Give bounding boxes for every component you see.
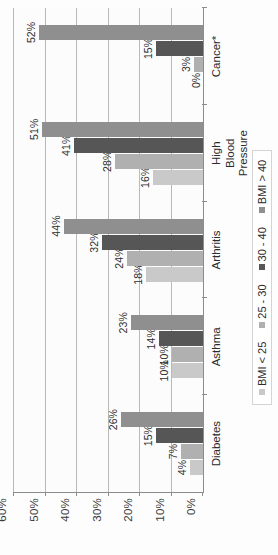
bar[interactable]: 32% xyxy=(102,235,203,250)
legend-swatch-icon xyxy=(259,207,265,213)
plot-area-wrapper: 0%10%20%30%40%50%60%4%7%15%26%Diabetes10… xyxy=(14,8,204,493)
bar[interactable]: 28% xyxy=(115,154,203,169)
y-axis-tick-mark xyxy=(108,492,109,496)
y-axis-tick-label: 60% xyxy=(0,498,8,522)
plot-area: 0%10%20%30%40%50%60%4%7%15%26%Diabetes10… xyxy=(14,8,204,493)
bar[interactable]: 26% xyxy=(121,412,203,427)
bar-value-label: 10% xyxy=(158,344,170,365)
x-axis-category-label: Asthma xyxy=(210,327,224,366)
legend-item[interactable]: BMI < 25 xyxy=(256,342,268,395)
bar-group: 4%7%15%26%Diabetes xyxy=(14,395,203,492)
y-axis-tick-mark xyxy=(171,492,172,496)
y-axis-tick-label: 10% xyxy=(154,498,166,522)
bar-value-label: 28% xyxy=(101,151,113,172)
bar-group: 16%28%41%51%High Blood Pressure xyxy=(14,105,203,202)
legend-item[interactable]: BMI > 40 xyxy=(256,160,268,213)
legend-swatch-icon xyxy=(259,389,265,395)
legend-item[interactable]: 30 - 40 xyxy=(256,227,268,270)
bar[interactable]: 23% xyxy=(131,315,203,330)
bar-value-label: 41% xyxy=(60,135,72,156)
bar[interactable]: 3% xyxy=(194,57,203,72)
rotated-page-canvas: 0%10%20%30%40%50%60%4%7%15%26%Diabetes10… xyxy=(0,0,278,555)
bar[interactable]: 18% xyxy=(146,267,203,282)
bar-value-label: 26% xyxy=(107,409,119,430)
chart-figure: 0%10%20%30%40%50%60%4%7%15%26%Diabetes10… xyxy=(0,0,278,555)
y-axis-tick-mark xyxy=(76,492,77,496)
bar-value-label: 4% xyxy=(176,460,188,475)
x-axis-group-separator xyxy=(202,7,207,8)
legend-label: BMI < 25 xyxy=(256,342,268,386)
bar-value-label: 24% xyxy=(113,247,125,268)
bar[interactable]: 14% xyxy=(159,331,203,346)
bar-group: 18%24%32%44%Arthritis xyxy=(14,202,203,299)
y-axis-tick-mark xyxy=(202,492,203,496)
legend-swatch-icon xyxy=(259,264,265,270)
bar-value-label: 32% xyxy=(88,231,100,252)
bar[interactable]: 24% xyxy=(127,251,203,266)
bar-value-label: 3% xyxy=(180,57,192,72)
bar[interactable]: 44% xyxy=(64,219,203,234)
y-axis-tick-mark xyxy=(139,492,140,496)
y-axis-tick-mark xyxy=(45,492,46,496)
bar[interactable]: 16% xyxy=(153,170,203,185)
bar[interactable]: 51% xyxy=(42,122,203,137)
bar-value-label: 15% xyxy=(142,425,154,446)
bar-value-label: 15% xyxy=(142,38,154,59)
bar[interactable]: 10% xyxy=(172,347,204,362)
y-axis-tick-label: 50% xyxy=(28,498,40,522)
legend-label: BMI > 40 xyxy=(256,160,268,204)
bar[interactable]: 7% xyxy=(181,444,203,459)
chart-legend: BMI < 2525 - 3030 - 40BMI > 40 xyxy=(252,150,272,405)
bar-group: 10%10%14%23%Asthma xyxy=(14,298,203,395)
x-axis-category-label: Arthritis xyxy=(210,231,224,270)
bar-group: 0%3%15%52%Cancer* xyxy=(14,8,203,105)
y-axis-tick-label: 20% xyxy=(122,498,134,522)
bar-value-label: 51% xyxy=(28,119,40,140)
x-axis-category-label: High Blood Pressure xyxy=(210,129,251,177)
bar[interactable]: 52% xyxy=(39,25,203,40)
bar[interactable]: 4% xyxy=(190,460,203,475)
x-axis-category-label: Diabetes xyxy=(210,421,224,466)
legend-swatch-icon xyxy=(259,322,265,328)
bar[interactable]: 15% xyxy=(156,428,203,443)
bar[interactable]: 15% xyxy=(156,41,203,56)
bar-value-label: 52% xyxy=(25,22,37,43)
bar-value-label: 18% xyxy=(132,263,144,284)
bar-value-label: 7% xyxy=(167,444,179,459)
legend-label: 25 - 30 xyxy=(256,284,268,318)
bar-value-label: 23% xyxy=(117,312,129,333)
bar-value-label: 44% xyxy=(50,215,62,236)
legend-item[interactable]: 25 - 30 xyxy=(256,284,268,327)
y-axis-tick-mark xyxy=(13,492,14,496)
bar-value-label: 16% xyxy=(139,167,151,188)
bar[interactable]: 10% xyxy=(172,363,204,378)
bar[interactable]: 41% xyxy=(74,138,203,153)
y-axis-tick-label: 30% xyxy=(91,498,103,522)
bar-value-label: 14% xyxy=(145,328,157,349)
y-axis-tick-label: 0% xyxy=(185,498,197,515)
x-axis-category-label: Cancer* xyxy=(210,36,224,78)
y-axis-tick-label: 40% xyxy=(59,498,71,522)
legend-label: 30 - 40 xyxy=(256,227,268,261)
bar-value-label: 0% xyxy=(190,73,202,88)
